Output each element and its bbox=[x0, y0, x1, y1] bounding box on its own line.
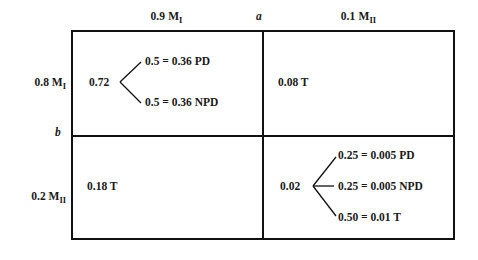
branch-tree-top-left: 0.72 0.5 = 0.36 PD 0.5 = 0.36 NPD bbox=[73, 32, 262, 135]
branch-label-bottom-right-0: 0.25 = 0.005 PD bbox=[338, 149, 415, 161]
branch-label-top-left-0: 0.5 = 0.36 PD bbox=[145, 55, 210, 67]
cell-bottom-left: 0.18 T bbox=[73, 137, 262, 238]
row-header-bottom-subscript: II bbox=[59, 195, 66, 205]
cell-value-top-right: 0.08 T bbox=[278, 76, 308, 88]
horizontal-divider-label-b: b bbox=[55, 126, 61, 138]
row-header-top-subscript: I bbox=[63, 81, 66, 91]
column-header-left-prob: 0.9 bbox=[150, 10, 165, 22]
branch-root-value-bottom-right: 0.02 bbox=[280, 180, 300, 192]
branch-root-value-top-left: 0.72 bbox=[89, 76, 109, 88]
row-header-bottom-state: M bbox=[49, 190, 60, 202]
row-header-bottom: 0.2 MII bbox=[4, 190, 66, 202]
cell-bottom-right: 0.02 0.25 = 0.005 PD 0.25 = 0.005 NPD 0.… bbox=[264, 137, 453, 238]
row-header-top-prob: 0.8 bbox=[35, 76, 49, 88]
column-header-left: 0.9 MI bbox=[71, 10, 262, 22]
branch-label-bottom-right-2: 0.50 = 0.01 T bbox=[338, 211, 401, 223]
branch-label-bottom-right-1: 0.25 = 0.005 NPD bbox=[338, 180, 423, 192]
column-header-left-subscript: I bbox=[179, 15, 182, 25]
cell-top-left: 0.72 0.5 = 0.36 PD 0.5 = 0.36 NPD bbox=[73, 32, 262, 135]
row-header-top: 0.8 MI bbox=[4, 76, 66, 88]
row-header-top-state: M bbox=[52, 76, 63, 88]
branch-tree-bottom-right: 0.02 0.25 = 0.005 PD 0.25 = 0.005 NPD 0.… bbox=[264, 137, 453, 238]
cell-value-bottom-left: 0.18 T bbox=[87, 180, 117, 192]
branch-label-top-left-1: 0.5 = 0.36 NPD bbox=[145, 96, 218, 108]
cell-top-right: 0.08 T bbox=[264, 32, 453, 135]
column-header-right-state: M bbox=[358, 10, 369, 22]
column-header-right-prob: 0.1 bbox=[341, 10, 356, 22]
matrix-box: 0.72 0.5 = 0.36 PD 0.5 = 0.36 NPD 0.08 T… bbox=[71, 30, 455, 240]
vertical-divider-label-a: a bbox=[256, 10, 262, 22]
probability-matrix-figure: 0.9 MI 0.1 MII a b 0.8 MI 0.2 MII 0.72 0… bbox=[0, 0, 478, 260]
column-header-right: 0.1 MII bbox=[262, 10, 455, 22]
column-header-left-state: M bbox=[168, 10, 179, 22]
column-header-right-subscript: II bbox=[369, 15, 376, 25]
row-header-bottom-prob: 0.2 bbox=[31, 190, 45, 202]
